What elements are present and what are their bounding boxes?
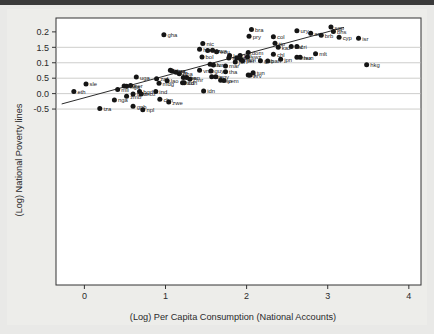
y-tick-label: -0.5 xyxy=(33,104,49,114)
data-point-label: arg xyxy=(314,31,323,37)
data-point-label: ecu xyxy=(220,49,230,55)
data-point xyxy=(200,41,205,46)
data-point-label: kgz xyxy=(211,48,220,54)
data-point-label: pry xyxy=(253,34,261,40)
data-point-label: pan xyxy=(271,58,281,64)
data-point-label: mdg xyxy=(163,81,174,87)
x-tick-marks-group xyxy=(84,285,408,289)
data-point xyxy=(97,106,102,111)
data-point xyxy=(200,55,205,60)
data-point xyxy=(313,51,318,56)
data-point xyxy=(131,104,136,109)
data-point xyxy=(249,27,254,32)
data-point-label: ury xyxy=(301,28,309,34)
data-point xyxy=(273,41,278,46)
data-point xyxy=(112,97,117,102)
data-point-label: brb xyxy=(325,33,334,39)
data-point xyxy=(180,80,185,85)
scatter-chart: 0.21.50.10.50.0-0.5 01234 sgpbraurybhsar… xyxy=(0,0,434,334)
data-point xyxy=(154,76,159,81)
figure-root: 0.21.50.10.50.0-0.5 01234 sgpbraurybhsar… xyxy=(0,0,434,334)
data-point-label: jpn xyxy=(283,57,292,63)
data-point xyxy=(271,34,276,39)
data-point-label: sle xyxy=(90,81,98,87)
data-point-label: vnm xyxy=(203,68,214,74)
x-tick-label: 2 xyxy=(244,291,249,301)
x-tick-label: 3 xyxy=(325,291,330,301)
x-axis-title: (Log) Per Capita Consumption (National A… xyxy=(130,312,336,322)
data-point-label: cyp xyxy=(343,35,353,41)
y-tick-labels-group: 0.21.50.10.50.0-0.5 xyxy=(33,27,49,114)
x-tick-label: 4 xyxy=(406,291,411,301)
x-tick-label: 1 xyxy=(163,291,168,301)
data-point-label: moz xyxy=(145,91,156,97)
data-point-label: mli xyxy=(121,87,129,93)
data-point-label: nga xyxy=(130,84,141,90)
data-point-label: tcd xyxy=(186,80,194,86)
x-tick-labels-group: 01234 xyxy=(82,291,411,301)
data-point-label: zwe xyxy=(172,100,183,106)
data-point xyxy=(197,47,202,52)
data-point xyxy=(134,75,139,80)
data-point xyxy=(157,97,162,102)
data-point-label: isr xyxy=(362,36,368,42)
data-point-label: nga xyxy=(118,97,129,103)
data-point xyxy=(308,31,313,36)
data-point-label: tha xyxy=(229,69,238,75)
data-point-label: hun xyxy=(304,55,314,61)
y-tick-label: 0.2 xyxy=(36,27,49,37)
data-point xyxy=(356,36,361,41)
data-point-label: zaf xyxy=(295,44,303,50)
data-point-label: hkg xyxy=(370,62,380,68)
data-point-label: eth xyxy=(77,89,85,95)
data-point-label: idn xyxy=(207,88,215,94)
data-point xyxy=(247,34,252,39)
y-axis-title: (Log) National Poverty lines xyxy=(14,103,24,216)
data-point-label: tza xyxy=(103,106,112,112)
y-tick-marks-group xyxy=(52,32,56,109)
data-point xyxy=(226,55,231,60)
data-point-label: zmb xyxy=(130,94,142,100)
data-point xyxy=(364,62,369,67)
y-tick-label: 0.0 xyxy=(36,89,49,99)
data-point xyxy=(337,35,342,40)
data-point xyxy=(161,32,166,37)
data-point xyxy=(71,89,76,94)
data-point xyxy=(201,89,206,94)
data-point xyxy=(271,52,276,57)
data-point-label: hrv xyxy=(253,73,261,79)
data-point-label: kaz xyxy=(282,45,291,51)
data-point-label: civ xyxy=(215,74,222,80)
plot-canvas: 0.21.50.10.50.0-0.5 01234 sgpbraurybhsar… xyxy=(0,0,434,334)
data-point xyxy=(294,28,299,33)
data-point-label: yem xyxy=(228,78,239,84)
data-point xyxy=(328,25,333,30)
data-point xyxy=(197,68,202,73)
data-point-label: col xyxy=(277,34,285,40)
data-point-label: bra xyxy=(255,27,264,33)
data-point-label: mlt xyxy=(319,51,327,57)
data-point-label: bol xyxy=(206,54,214,60)
data-point-label: per xyxy=(246,58,255,64)
data-point-label: ind xyxy=(159,89,167,95)
y-tick-label: 0.5 xyxy=(36,73,49,83)
y-tick-label: 0.1 xyxy=(36,58,49,68)
data-point-label: uga xyxy=(140,75,151,81)
data-point xyxy=(84,81,89,86)
data-point xyxy=(209,74,214,79)
x-tick-label: 0 xyxy=(82,291,87,301)
data-point-label: gha xyxy=(167,32,178,38)
y-tick-label: 1.5 xyxy=(36,43,49,53)
data-point xyxy=(115,87,120,92)
data-point-label: npl xyxy=(146,107,154,113)
